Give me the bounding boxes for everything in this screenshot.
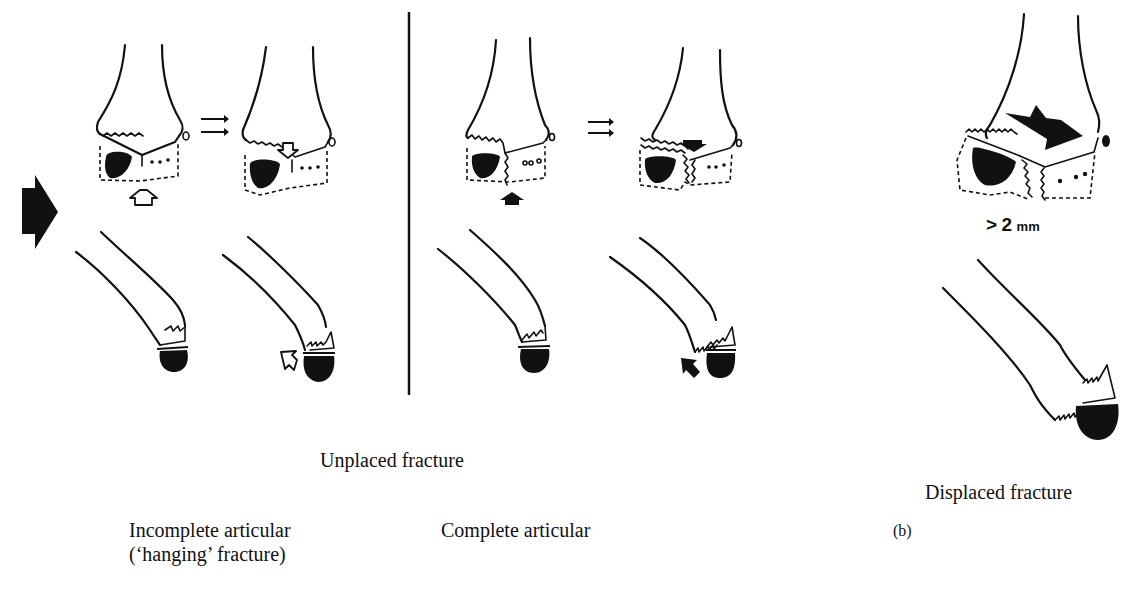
displaced-fracture-title: Displaced fracture xyxy=(925,480,1072,504)
large-solid-arrow-icon xyxy=(1005,105,1083,150)
transition-arrows-icon xyxy=(201,115,229,136)
incomplete-articular-line2: (‘hanging’ fracture) xyxy=(129,542,291,566)
incomplete-articular-line1: Incomplete articular xyxy=(129,518,291,542)
displaced-frontal xyxy=(957,14,1110,200)
force-arrow-icon xyxy=(22,175,58,249)
complete-articular-label: Complete articular xyxy=(441,518,590,542)
incomplete-frontal-after xyxy=(243,47,335,195)
displaced-lateral xyxy=(943,260,1119,440)
incomplete-lateral-before xyxy=(76,232,188,372)
solid-arrow-down-icon xyxy=(680,140,707,152)
hollow-arrow-up-icon xyxy=(130,190,157,205)
complete-frontal-before xyxy=(467,38,555,185)
incomplete-lateral-after xyxy=(223,237,335,382)
panel-label: (b) xyxy=(893,519,912,543)
transition-arrows-icon xyxy=(588,118,614,137)
complete-frontal-after xyxy=(640,48,742,190)
displacement-threshold: > 2 mm xyxy=(986,214,1040,236)
unplaced-fracture-title: Unplaced fracture xyxy=(320,448,464,472)
complete-lateral-after xyxy=(610,238,736,378)
incomplete-frontal-before xyxy=(97,45,189,181)
complete-lateral-before xyxy=(438,230,550,373)
incomplete-articular-label: Incomplete articular (‘hanging’ fracture… xyxy=(129,518,291,566)
solid-arrow-diag-icon xyxy=(681,358,700,378)
solid-arrow-up-icon xyxy=(500,192,524,205)
hollow-arrow-diag-icon xyxy=(281,351,297,370)
